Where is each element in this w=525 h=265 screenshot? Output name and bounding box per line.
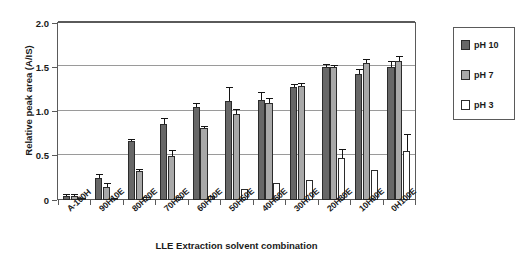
error-bar-cap: [136, 169, 143, 170]
legend-swatch-icon: [461, 40, 470, 50]
error-bar: [131, 140, 132, 141]
error-bar-cap: [298, 83, 305, 84]
y-tick-label: 0.5: [5, 150, 49, 161]
x-tick-mark: [155, 200, 156, 205]
x-tick-mark: [253, 200, 254, 205]
error-bar-cap: [233, 109, 240, 110]
bar[interactable]: [225, 101, 232, 200]
legend-item[interactable]: pH 3: [461, 100, 494, 110]
error-bar-cap: [363, 59, 370, 60]
error-bar-cap: [96, 174, 103, 175]
error-bar: [229, 88, 230, 101]
error-bar-cap: [128, 139, 135, 140]
bar[interactable]: [363, 63, 370, 200]
bar-group: [123, 23, 155, 200]
x-tick-mark: [285, 200, 286, 205]
y-tick-label: 1.0: [5, 106, 49, 117]
bar[interactable]: [298, 86, 305, 200]
legend-swatch-icon: [461, 70, 470, 80]
error-bar-cap: [193, 103, 200, 104]
legend-item[interactable]: pH 7: [461, 70, 494, 80]
bar-group: [58, 23, 90, 200]
error-bar: [342, 150, 343, 158]
error-bar-cap: [226, 87, 233, 88]
error-bar: [359, 70, 360, 74]
error-bar: [66, 195, 67, 196]
error-bar-cap: [169, 150, 176, 151]
error-bar-cap: [323, 64, 330, 65]
error-bar-cap: [331, 65, 338, 66]
error-bar: [204, 127, 205, 128]
error-bar: [139, 170, 140, 171]
error-bar: [164, 119, 165, 124]
x-tick-mark: [350, 200, 351, 205]
bar-group: [285, 23, 317, 200]
legend-item[interactable]: pH 10: [461, 40, 499, 50]
bar[interactable]: [330, 67, 337, 200]
y-tick-label: 1.5: [5, 61, 49, 72]
y-tick-label: 2.0: [5, 17, 49, 28]
legend-label: pH 10: [474, 40, 499, 50]
bar-group: [253, 23, 285, 200]
error-bar-cap: [201, 126, 208, 127]
bar-group: [383, 23, 415, 200]
y-axis-tick-labels: 00.51.01.52.0: [0, 0, 49, 265]
chart-legend: pH 10pH 7pH 3: [453, 27, 515, 120]
bar-group: [188, 23, 220, 200]
bar[interactable]: [200, 128, 207, 200]
bar[interactable]: [63, 196, 70, 200]
bar[interactable]: [290, 87, 297, 200]
bar[interactable]: [395, 61, 402, 200]
x-axis-title: LLE Extraction solvent combination: [57, 240, 416, 251]
error-bar: [261, 93, 262, 100]
error-bar: [399, 57, 400, 61]
error-bar-cap: [104, 183, 111, 184]
gridline: [58, 21, 415, 22]
x-tick-mark: [415, 200, 416, 205]
bar[interactable]: [322, 67, 329, 200]
bar-group: [350, 23, 382, 200]
bar-chart-figure: Relative peak area (A/IS) 00.51.01.52.0 …: [0, 0, 525, 265]
error-bar-cap: [291, 84, 298, 85]
bar[interactable]: [233, 114, 240, 200]
bar[interactable]: [193, 107, 200, 200]
error-bar-cap: [396, 56, 403, 57]
legend-swatch-icon: [461, 100, 470, 110]
error-bar: [99, 175, 100, 178]
error-bar: [107, 184, 108, 187]
error-bar: [326, 65, 327, 67]
x-tick-mark: [188, 200, 189, 205]
error-bar-cap: [339, 149, 346, 150]
bar[interactable]: [258, 100, 265, 200]
bar[interactable]: [355, 74, 362, 200]
x-tick-mark: [90, 200, 91, 205]
x-tick-mark: [123, 200, 124, 205]
error-bar: [269, 99, 270, 103]
x-tick-mark: [220, 200, 221, 205]
bar-group: [220, 23, 252, 200]
x-tick-mark: [383, 200, 384, 205]
error-bar: [407, 135, 408, 151]
bar-series-container: [58, 23, 415, 200]
error-bar: [391, 62, 392, 67]
error-bar: [236, 110, 237, 114]
bar[interactable]: [95, 178, 102, 200]
x-tick-mark: [58, 200, 59, 205]
bar[interactable]: [387, 67, 394, 200]
error-bar: [196, 104, 197, 107]
error-bar: [366, 60, 367, 63]
legend-label: pH 7: [474, 70, 494, 80]
error-bar-cap: [258, 92, 265, 93]
error-bar-cap: [63, 194, 70, 195]
error-bar: [294, 85, 295, 87]
bar-group: [155, 23, 187, 200]
error-bar-cap: [388, 61, 395, 62]
bar[interactable]: [128, 141, 135, 200]
bar[interactable]: [160, 124, 167, 200]
error-bar-cap: [161, 118, 168, 119]
error-bar-cap: [356, 69, 363, 70]
error-bar-cap: [266, 98, 273, 99]
bar[interactable]: [265, 103, 272, 200]
x-tick-mark: [318, 200, 319, 205]
error-bar: [334, 66, 335, 67]
